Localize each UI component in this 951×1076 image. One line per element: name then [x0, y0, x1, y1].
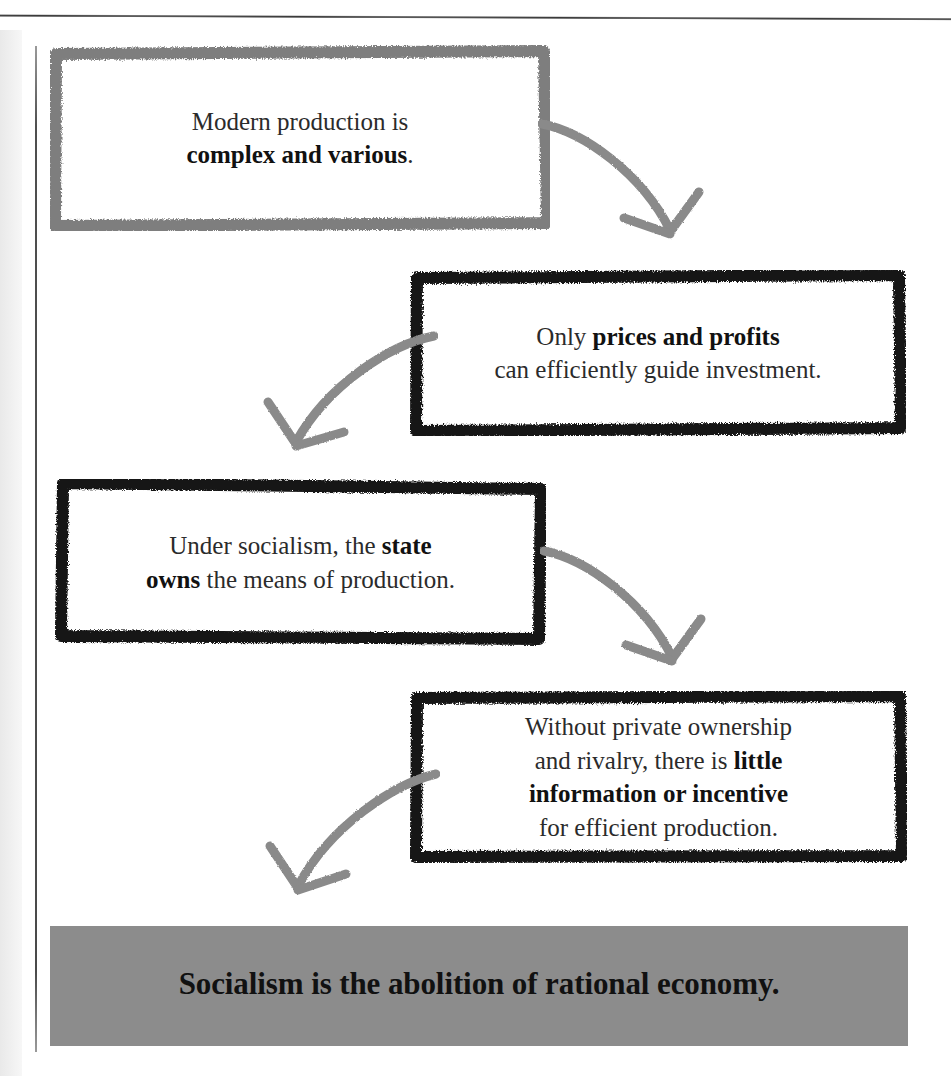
flow-node-prices-and-profits[interactable]: Only prices and profits can efficiently …: [410, 270, 906, 436]
arrow-node1-to-node2: [538, 118, 728, 258]
node-4-line-1: Without private ownership: [525, 713, 792, 740]
flow-node-2-text: Only prices and profits can efficiently …: [468, 320, 847, 387]
conclusion-banner[interactable]: Socialism is the abolition of rational e…: [50, 926, 908, 1046]
node-2-line-2: can efficiently guide investment.: [494, 356, 821, 383]
node-1-line-2-tail: .: [407, 141, 413, 168]
flow-node-state-owns-production[interactable]: Under socialism, the state owns the mean…: [55, 479, 546, 646]
node-3-line-2-tail: the means of production.: [200, 566, 455, 593]
conclusion-banner-text: Socialism is the abolition of rational e…: [179, 966, 780, 1006]
node-3-line-1-pre: Under socialism, the: [169, 532, 381, 559]
node-3-line-2-bold: owns: [146, 566, 200, 593]
node-4-line-2-pre: and rivalry, there is: [535, 747, 734, 774]
node-1-line-1: Modern production is: [192, 108, 409, 135]
node-2-line-1-pre: Only: [536, 323, 592, 350]
left-vertical-rule: [35, 46, 37, 1052]
node-1-line-2-bold: complex and various: [186, 141, 407, 168]
node-4-line-2-bold: little: [734, 747, 783, 774]
flowchart-page: Modern production is complex and various…: [0, 0, 951, 1076]
node-4-line-4: for efficient production.: [539, 814, 778, 841]
node-2-line-1-bold: prices and profits: [593, 323, 780, 350]
node-3-line-1-bold: state: [382, 532, 432, 559]
flow-node-modern-production[interactable]: Modern production is complex and various…: [50, 45, 550, 231]
node-4-line-3-bold: information or incentive: [529, 780, 788, 807]
top-horizontal-rule: [0, 14, 951, 21]
flow-node-1-text: Modern production is complex and various…: [160, 105, 439, 172]
flow-node-no-information-or-incentive[interactable]: Without private ownership and rivalry, t…: [410, 691, 907, 863]
page-gutter-shadow: [0, 30, 22, 1076]
arrow-node3-to-node4: [540, 543, 730, 683]
flow-node-4-text: Without private ownership and rivalry, t…: [499, 710, 818, 844]
flow-node-3-text: Under socialism, the state owns the mean…: [120, 529, 481, 596]
